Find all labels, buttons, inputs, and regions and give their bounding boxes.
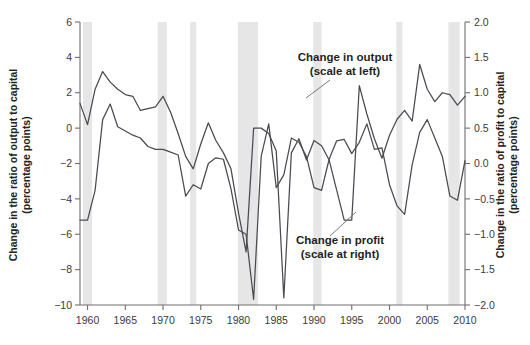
right-tick-label: 0.5 — [474, 122, 489, 134]
recession-band — [83, 22, 92, 305]
x-tick-label: 1985 — [265, 314, 289, 326]
right-axis-title-line1: Change in the ratio of profit to capital — [494, 72, 506, 259]
profit-annotation-line2: (scale at right) — [301, 248, 380, 260]
output-annotation-line1: Change in output — [298, 51, 393, 63]
left-tick-label: −4 — [60, 193, 72, 205]
left-tick-label: −6 — [60, 228, 72, 240]
recession-band — [158, 22, 167, 305]
left-tick-label: 0 — [66, 122, 72, 134]
right-tick-label: 1.0 — [474, 86, 489, 98]
profit-series-line — [80, 104, 465, 299]
right-axis-ticks: 2.01.51.00.50.0−0.5−1.0−1.5−2.0 — [465, 16, 495, 311]
recession-band — [448, 22, 459, 305]
output-series-line — [80, 64, 465, 297]
left-tick-label: 4 — [66, 51, 72, 63]
x-tick-label: 1980 — [227, 314, 251, 326]
left-tick-label: 6 — [66, 16, 72, 28]
left-axis-title-line1: Change in the ratio of output to capital — [7, 69, 19, 262]
right-tick-label: 1.5 — [474, 51, 489, 63]
recession-band — [396, 22, 402, 305]
right-axis-title-line2: (percentage points) — [507, 116, 519, 213]
data-series — [80, 64, 465, 299]
x-tick-label: 1990 — [302, 314, 326, 326]
left-tick-label: −10 — [54, 299, 72, 311]
x-tick-label: 2005 — [416, 314, 440, 326]
chart-axes — [80, 22, 465, 305]
left-axis-ticks: 6420−2−4−6−8−10 — [54, 16, 80, 311]
x-tick-label: 1970 — [151, 314, 175, 326]
left-axis-title-line2: (percentage points) — [20, 116, 32, 213]
left-tick-label: 2 — [66, 86, 72, 98]
right-tick-label: −0.5 — [474, 193, 495, 205]
x-tick-label: 1995 — [340, 314, 364, 326]
left-tick-label: −8 — [60, 263, 72, 275]
output-annotation-line2: (scale at left) — [310, 65, 380, 77]
x-tick-label: 1960 — [76, 314, 100, 326]
x-tick-label: 1965 — [114, 314, 138, 326]
right-tick-label: 2.0 — [474, 16, 489, 28]
dual-axis-line-chart: 6420−2−4−6−8−10 2.01.51.00.50.0−0.5−1.0−… — [0, 0, 530, 345]
series-annotations: Change in output (scale at left) Change … — [296, 51, 393, 260]
right-tick-label: −1.5 — [474, 263, 495, 275]
right-tick-label: −2.0 — [474, 299, 495, 311]
right-tick-label: 0.0 — [474, 157, 489, 169]
right-tick-label: −1.0 — [474, 228, 495, 240]
x-tick-label: 1975 — [189, 314, 213, 326]
chart-container: 6420−2−4−6−8−10 2.01.51.00.50.0−0.5−1.0−… — [0, 0, 530, 345]
profit-annotation-line1: Change in profit — [296, 234, 384, 246]
left-tick-label: −2 — [60, 157, 72, 169]
x-axis-ticks: 1960196519701975198019851990199520002005… — [76, 305, 477, 326]
x-tick-label: 2010 — [453, 314, 477, 326]
x-tick-label: 2000 — [378, 314, 402, 326]
recession-bands — [83, 22, 460, 305]
